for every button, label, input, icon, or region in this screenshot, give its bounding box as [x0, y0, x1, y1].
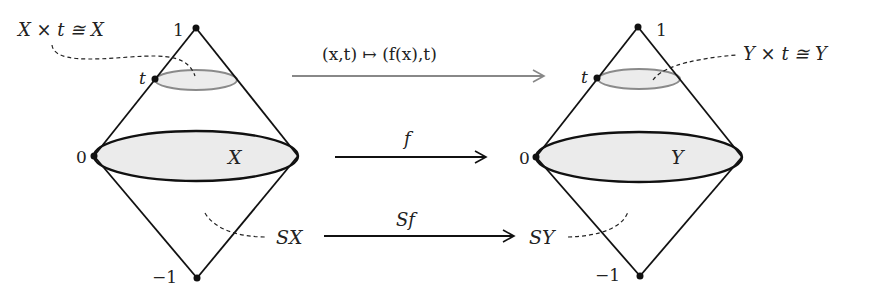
label-t: t: [139, 68, 146, 88]
point-0: [533, 154, 540, 161]
point-0: [91, 153, 98, 160]
annotation-leader-sy: [568, 212, 628, 237]
label-sy: SY: [529, 226, 557, 248]
base-ellipse-y: [536, 132, 742, 182]
arrow-top-product-map: (x,t) ↦ (f(x),t): [292, 44, 544, 76]
label-1: 1: [173, 20, 184, 40]
label-0: 0: [76, 147, 87, 167]
label-f: f: [402, 128, 414, 149]
point-minus-1: [637, 273, 644, 280]
label-1: 1: [656, 20, 667, 40]
point-1: [193, 25, 200, 32]
label-base-x: X: [226, 146, 243, 168]
slice-ellipse-x-t: [155, 70, 237, 90]
label-sx: SX: [276, 226, 304, 248]
label-minus-1: −1: [152, 267, 177, 287]
right-suspension-sy: 1 t 0 −1 Y Y × t ≅ Y SY: [519, 20, 829, 285]
point-minus-1: [194, 275, 201, 282]
label-minus-1: −1: [595, 265, 620, 285]
slice-ellipse-y-t: [598, 69, 680, 89]
label-sf: Sf: [396, 209, 418, 230]
label-t: t: [581, 67, 588, 87]
slice-annotation-y: Y × t ≅ Y: [743, 43, 829, 64]
annotation-leader-sx: [205, 213, 266, 237]
left-suspension-sx: 1 t 0 −1 X X × t ≅ X SX: [16, 19, 304, 287]
base-ellipse-x: [94, 131, 298, 181]
point-t: [594, 75, 601, 82]
slice-annotation-x: X × t ≅ X: [16, 19, 105, 40]
suspension-diagram: 1 t 0 −1 X X × t ≅ X SX (x,t) ↦ (f(x),t)…: [0, 0, 872, 301]
label-0: 0: [519, 148, 530, 168]
point-t: [152, 76, 159, 83]
arrow-bottom-sf: Sf: [324, 209, 514, 236]
label-product-map: (x,t) ↦ (f(x),t): [322, 44, 437, 64]
point-1: [635, 24, 642, 31]
arrow-middle-f: f: [335, 128, 486, 157]
